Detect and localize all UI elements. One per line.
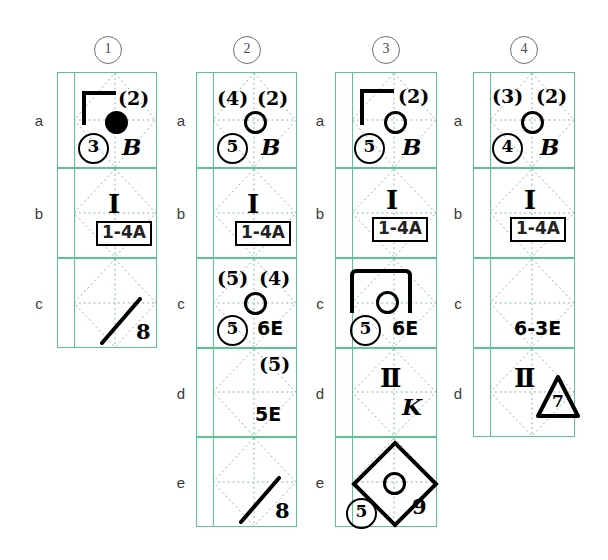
mark-top-right: (2) xyxy=(118,89,149,108)
mark-top-left: (3) xyxy=(492,87,523,106)
diagram-canvas: 1 2 3 4 a b c a b c d e a b c d e a b c … xyxy=(0,0,608,560)
row-label-col2-b: b xyxy=(172,205,190,222)
cell-gutter xyxy=(197,73,214,167)
mark-bottom-left-circled: 5 xyxy=(346,498,377,529)
cell-gutter xyxy=(197,169,214,257)
mark-top-right: (5) xyxy=(259,355,290,374)
mark-bottom-left-circled: 3 xyxy=(78,133,109,164)
mark-top-right: (4) xyxy=(259,269,290,288)
boxed-code-text: 1-4A xyxy=(102,222,146,242)
cell-gutter xyxy=(474,169,491,257)
row-label-text: b xyxy=(454,205,462,222)
row-label-col3-e: e xyxy=(311,474,329,491)
cell-col2-c[interactable]: (5) (4) 5 6E xyxy=(196,258,297,348)
mark-bottom-left-circled: 4 xyxy=(492,133,523,164)
token-open-circle xyxy=(244,292,267,315)
cell-col4-b[interactable]: I 1-4A xyxy=(473,168,575,258)
cell-col4-c[interactable]: 6-3E xyxy=(473,258,575,348)
row-label-col2-d: d xyxy=(172,385,190,402)
token-open-circle xyxy=(244,111,267,134)
row-label-text: c xyxy=(316,295,324,312)
column-header-3-label: 3 xyxy=(383,41,390,56)
row-label-text: b xyxy=(316,205,324,222)
row-label-col4-d: d xyxy=(449,385,467,402)
mark-bottom-right: B xyxy=(261,135,280,158)
column-header-2-label: 2 xyxy=(244,41,251,56)
cell-gutter xyxy=(58,259,75,347)
triangle-marker-icon: 7 xyxy=(536,375,580,419)
mark-bottom-left-circled: 5 xyxy=(217,315,248,346)
cell-col4-a[interactable]: (3) (2) 4 B xyxy=(473,72,575,168)
cell-gutter xyxy=(336,73,353,167)
cell-gutter xyxy=(336,349,353,436)
row-label-col3-a: a xyxy=(311,112,329,129)
mark-bottom-right: 6E xyxy=(392,319,418,338)
cell-col2-a[interactable]: (4) (2) 5 B xyxy=(196,72,297,168)
mark-bottom-right: K xyxy=(402,395,422,418)
row-label-col4-c: c xyxy=(449,295,467,312)
row-label-col3-c: c xyxy=(311,295,329,312)
mark-bottom-right: B xyxy=(540,135,559,158)
row-label-text: e xyxy=(316,474,324,491)
boxed-code-label: 1-4A xyxy=(96,221,152,246)
mark-bottom-right: B xyxy=(122,135,141,158)
mark-center-roman: I xyxy=(247,191,259,217)
cell-col3-a[interactable]: (2) 5 B xyxy=(335,72,437,168)
row-label-text: c xyxy=(454,295,462,312)
mark-center-roman: I xyxy=(108,191,120,217)
cell-col1-c[interactable]: 8 xyxy=(57,258,157,348)
row-label-col2-e: e xyxy=(172,474,190,491)
cell-col2-e[interactable]: 8 xyxy=(196,437,297,527)
cell-col2-d[interactable]: (5) 5E xyxy=(196,348,297,437)
cell-col3-b[interactable]: I 1-4A xyxy=(335,168,437,258)
circled-number-text: 5 xyxy=(227,318,239,338)
cell-col4-d[interactable]: II 7 xyxy=(473,348,575,437)
mark-slash-number: 8 xyxy=(136,321,151,342)
circled-number-text: 5 xyxy=(364,136,376,156)
row-label-text: a xyxy=(177,112,185,129)
column-header-2: 2 xyxy=(233,36,261,64)
row-label-text: b xyxy=(35,205,43,222)
row-label-col1-c: c xyxy=(30,295,48,312)
boxed-code-label: 1-4A xyxy=(235,221,291,246)
circled-number-text: 5 xyxy=(356,501,368,521)
row-label-text: c xyxy=(177,295,185,312)
row-label-text: a xyxy=(316,112,324,129)
mark-bottom-left-circled: 5 xyxy=(354,133,385,164)
cell-col3-c[interactable]: 5 6E xyxy=(335,258,437,348)
cell-col1-b[interactable]: I 1-4A xyxy=(57,168,157,258)
mark-bottom-right: B xyxy=(402,135,421,158)
mark-top-left: (5) xyxy=(217,269,248,288)
mark-center-roman: I xyxy=(386,187,398,213)
mark-top-right: (2) xyxy=(536,87,567,106)
row-label-col1-b: b xyxy=(30,205,48,222)
row-label-col1-a: a xyxy=(30,112,48,129)
column-header-4: 4 xyxy=(510,36,538,64)
cell-col1-a[interactable]: (2) 3 B xyxy=(57,72,157,168)
mark-bottom-left-circled: 5 xyxy=(217,133,248,164)
column-header-3: 3 xyxy=(372,36,400,64)
mark-bottom-right: 5E xyxy=(255,405,281,424)
cell-col3-e[interactable]: 5 9 xyxy=(335,437,437,527)
row-label-col3-d: d xyxy=(311,385,329,402)
row-label-text: a xyxy=(35,112,43,129)
token-open-circle xyxy=(521,111,544,134)
row-label-col2-a: a xyxy=(172,112,190,129)
cell-col2-b[interactable]: I 1-4A xyxy=(196,168,297,258)
cell-col3-d[interactable]: II K xyxy=(335,348,437,437)
mark-bottom-right: 9 xyxy=(412,496,427,517)
row-label-text: d xyxy=(316,385,324,402)
row-label-col4-a: a xyxy=(449,112,467,129)
token-open-circle xyxy=(383,472,406,495)
token-open-circle xyxy=(384,111,407,134)
cell-gutter xyxy=(474,259,491,347)
column-header-4-label: 4 xyxy=(521,41,528,56)
row-label-col3-b: b xyxy=(311,205,329,222)
mark-center-roman: II xyxy=(514,365,532,391)
column-2: (4) (2) 5 B I 1-4A xyxy=(196,72,297,527)
mark-top-left: (4) xyxy=(217,89,248,108)
row-label-text: a xyxy=(454,112,462,129)
row-label-text: c xyxy=(35,295,43,312)
boxed-code-text: 1-4A xyxy=(378,218,422,238)
mark-center-roman: I xyxy=(524,187,536,213)
